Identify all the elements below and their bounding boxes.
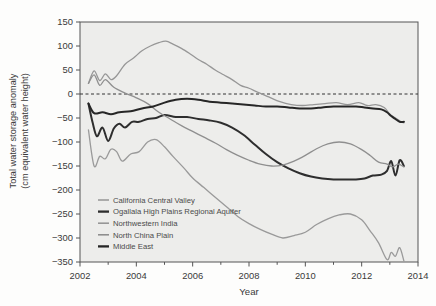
y-tick-label: −250	[52, 208, 73, 219]
legend-label: North China Plain	[113, 231, 173, 240]
y-axis-title-line2: (cm equivalent water height)	[20, 73, 30, 188]
x-tick-label: 2012	[351, 270, 372, 281]
x-axis-ticks: 2002200420062008201020122014	[70, 262, 429, 281]
y-tick-label: 100	[57, 40, 73, 51]
x-tick-label: 2010	[295, 270, 316, 281]
y-tick-label: 0	[68, 88, 73, 99]
legend-label: Middle East	[113, 242, 154, 251]
legend-label: Northwestern India	[113, 219, 178, 228]
y-tick-label: −150	[52, 160, 73, 171]
y-axis-title-line1: Total water storage anomaly	[8, 74, 18, 189]
y-axis-title: Total water storage anomaly (cm equivale…	[2, 0, 36, 262]
y-tick-label: −100	[52, 136, 73, 147]
x-tick-label: 2008	[239, 270, 260, 281]
y-tick-label: 50	[63, 64, 73, 75]
y-tick-label: −300	[52, 232, 73, 243]
x-tick-label: 2014	[408, 270, 429, 281]
x-tick-label: 2004	[126, 270, 147, 281]
y-axis-ticks: 150100500−50−100−150−200−250−300−350	[52, 16, 80, 267]
legend-label: Ogallala High Plains Regional Aquifer	[113, 207, 241, 216]
y-tick-label: 150	[57, 16, 73, 27]
y-tick-label: −50	[57, 112, 73, 123]
x-tick-label: 2006	[182, 270, 203, 281]
line-chart-plot: 150100500−50−100−150−200−250−300−350 200…	[0, 0, 436, 306]
y-tick-label: −200	[52, 184, 73, 195]
y-tick-label: −350	[52, 256, 73, 267]
x-tick-label: 2002	[70, 270, 91, 281]
x-axis-title: Year	[80, 286, 418, 297]
legend-label: California Central Valley	[113, 196, 195, 205]
chart-container: Total water storage anomaly (cm equivale…	[0, 0, 436, 306]
